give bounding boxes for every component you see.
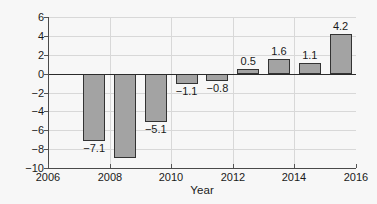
x-tick-mark (171, 164, 172, 168)
x-tick-label: 2012 (203, 171, 263, 183)
y-tick-mark (44, 168, 48, 169)
y-tick-mark (44, 130, 48, 131)
chart-figure: Current account (%GDP) Year −7.1−5.1−1.1… (0, 0, 377, 204)
x-tick-label: 2010 (141, 171, 201, 183)
bar-value-label: −7.1 (70, 142, 118, 154)
x-tick-label: 2006 (18, 171, 78, 183)
bar-value-label: −0.8 (193, 82, 241, 94)
x-axis-label: Year (48, 184, 356, 196)
bar (114, 74, 136, 158)
bar (83, 74, 105, 141)
x-tick-mark (233, 164, 234, 168)
y-axis-line (48, 17, 49, 169)
y-tick-mark (44, 93, 48, 94)
y-tick-label: −4 (31, 105, 44, 117)
x-tick-label: 2014 (264, 171, 324, 183)
bar-value-label: 4.2 (317, 20, 365, 32)
y-tick-mark (44, 74, 48, 75)
x-tick-mark (294, 164, 295, 168)
bar (330, 34, 352, 74)
x-axis-line (48, 168, 356, 169)
y-tick-mark (44, 36, 48, 37)
x-tick-label: 2008 (80, 171, 140, 183)
gridline-vertical (294, 17, 295, 168)
y-tick-label: −6 (31, 124, 44, 136)
bar-value-label: 1.1 (286, 49, 334, 61)
x-tick-mark (356, 164, 357, 168)
y-tick-mark (44, 17, 48, 18)
y-tick-label: −2 (31, 87, 44, 99)
bar (145, 74, 167, 122)
y-tick-label: −8 (31, 143, 44, 155)
bar-value-label: 0.5 (224, 55, 272, 67)
bar (299, 63, 321, 73)
x-tick-mark (110, 164, 111, 168)
gridline-horizontal (48, 36, 356, 37)
zero-line (48, 74, 356, 75)
bar (237, 69, 259, 74)
y-tick-mark (44, 111, 48, 112)
y-tick-mark (44, 149, 48, 150)
x-tick-mark (48, 164, 49, 168)
gridline-horizontal (48, 17, 356, 18)
x-tick-label: 2016 (326, 171, 377, 183)
bar-value-label: −5.1 (132, 123, 180, 135)
y-tick-mark (44, 55, 48, 56)
